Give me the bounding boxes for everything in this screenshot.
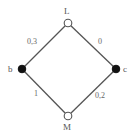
node-label-c: c [123,64,127,74]
edge-L-c [68,23,116,69]
node-label-b: b [8,64,13,74]
edge-L-b [22,23,68,69]
node-label-L: L [64,6,70,16]
node-c [112,65,120,73]
node-label-M: M [63,122,71,132]
edge-c-M [68,69,116,116]
lattice-diagram: 0,3 0 1 0,2 L b c M [0,0,132,135]
node-M [64,112,72,120]
edge-label-c-M: 0,2 [95,91,105,100]
node-L [64,19,72,27]
node-b [18,65,26,73]
edge-label-L-b: 0,3 [27,37,37,46]
edge-b-M [22,69,68,116]
edge-label-b-M: 1 [34,89,38,98]
edge-label-L-c: 0 [98,37,102,46]
